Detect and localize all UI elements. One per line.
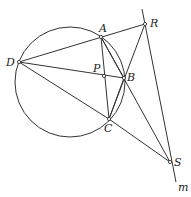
point-d (17, 60, 20, 63)
point-r (143, 22, 146, 25)
point-label-r: R (149, 17, 158, 30)
point-s (168, 160, 171, 163)
point-label-p: P (92, 62, 101, 75)
point-label-b: B (126, 71, 135, 84)
line-m-label: m (178, 181, 188, 194)
segment-dr (19, 24, 145, 62)
segments (19, 24, 170, 162)
point-label-d: D (5, 56, 15, 69)
point-b (122, 76, 125, 79)
segment-cs (109, 119, 170, 162)
point-a (99, 35, 102, 38)
line-m (142, 9, 176, 182)
segment-bc (109, 78, 124, 119)
point-label-s: S (174, 156, 182, 169)
point-label-a: A (98, 22, 107, 35)
segment-db (19, 62, 124, 78)
point-label-c: C (104, 122, 113, 135)
point-c (107, 117, 110, 120)
geometry-diagram: m ABCDPRS (0, 0, 191, 197)
point-p (102, 74, 105, 77)
